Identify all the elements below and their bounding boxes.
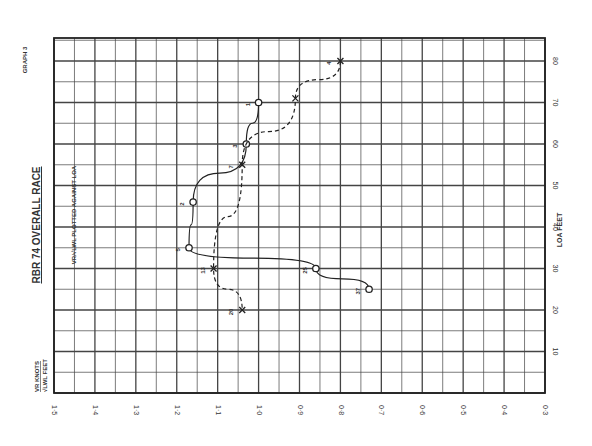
value-tick-label: 1·5 xyxy=(51,405,58,415)
data-point-circle xyxy=(255,99,261,105)
data-point-circle xyxy=(366,286,372,292)
value-tick-label: 0·3 xyxy=(542,405,549,415)
chart: 1·51·41·31·21·11·00·90·80·70·60·50·40·31… xyxy=(0,0,592,446)
value-tick-label: 0·9 xyxy=(297,405,304,415)
y-axis-label: LOA FEET xyxy=(556,212,563,247)
value-tick-label: 1·0 xyxy=(256,405,263,415)
point-label: 20 xyxy=(228,308,234,315)
data-point-circle xyxy=(186,245,192,251)
grid xyxy=(54,38,545,393)
chart-subtitle: VR/√LWL PLOTTED AGAINST LOA xyxy=(71,165,77,264)
value-tick-label: 0·8 xyxy=(338,405,345,415)
chart-title: RBR 74 OVERALL RACE xyxy=(31,166,42,283)
loa-tick-label: 70 xyxy=(552,99,559,107)
loa-tick-label: 30 xyxy=(552,265,559,273)
value-tick-label: 1·4 xyxy=(92,405,99,415)
value-tick-label: 0·4 xyxy=(501,405,508,415)
point-label: 37 xyxy=(355,287,361,294)
loa-tick-label: 20 xyxy=(552,306,559,314)
loa-tick-label: 60 xyxy=(552,140,559,148)
value-tick-label: 1·3 xyxy=(133,405,140,415)
loa-tick-label: 10 xyxy=(552,348,559,356)
point-label: 2 xyxy=(179,202,185,206)
loa-tick-label: 80 xyxy=(552,57,559,65)
value-tick-label: 0·5 xyxy=(460,405,467,415)
loa-tick-label: 50 xyxy=(552,182,559,190)
graph-label: GRAPH 3 xyxy=(22,46,28,73)
point-label: 13 xyxy=(200,267,206,274)
data-point-circle xyxy=(190,199,196,205)
value-tick-label: 1·1 xyxy=(215,405,222,415)
x-axis-label-bottom: √LWL FEET xyxy=(42,359,48,392)
value-tick-label: 1·2 xyxy=(174,405,181,415)
x-axis-label-top: VR KNOTS xyxy=(34,361,40,392)
point-label: 25 xyxy=(302,267,308,274)
value-tick-label: 0·7 xyxy=(378,405,385,415)
value-tick-label: 0·6 xyxy=(419,405,426,415)
data-point-circle xyxy=(313,265,319,271)
